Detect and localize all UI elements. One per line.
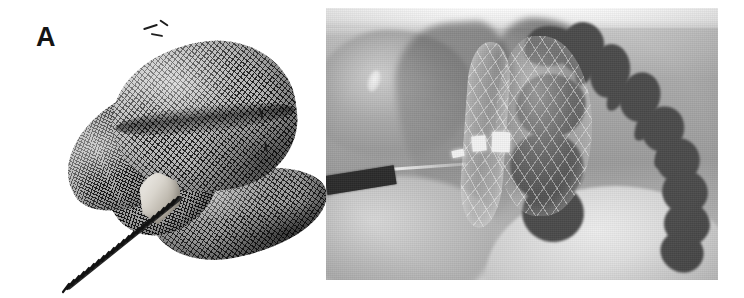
figure-root: A — [0, 0, 744, 298]
deployed-device-shadow — [454, 32, 594, 246]
radiograph-panel — [326, 8, 718, 280]
wire-whisker-3 — [159, 19, 168, 26]
radiopaque-marker-2 — [492, 132, 511, 153]
wire-whisker-2 — [151, 33, 163, 37]
panel-label-a: A — [36, 24, 56, 51]
delivery-coil-cable — [61, 196, 187, 294]
deployed-braid-texture — [496, 36, 592, 216]
device-photograph-panel — [55, 20, 310, 278]
wire-whisker-1 — [143, 24, 158, 31]
deployed-mesh-body — [496, 36, 592, 216]
radiopaque-marker-1 — [471, 135, 486, 151]
